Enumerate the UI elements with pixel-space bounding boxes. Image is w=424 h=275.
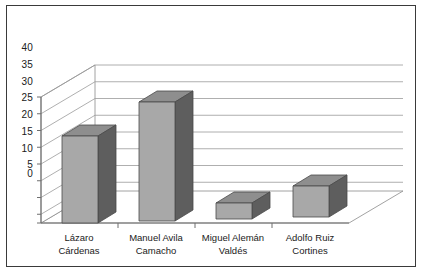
ytick-label-40: 40	[7, 42, 33, 53]
category-label-line-2: Camacho	[113, 244, 199, 257]
ytick-label-15: 15	[7, 126, 33, 137]
category-label-lazaro-cardenas: Lázaro Cárdenas	[36, 231, 122, 257]
value-axis	[37, 97, 41, 223]
bar-adolfo-ruiz-cortines[interactable]	[293, 175, 347, 217]
ytick-label-25: 25	[7, 92, 33, 103]
chart-frame: 40 35 30 25 20 15 10 5 0 Lázaro Cárdenas…	[6, 5, 416, 267]
category-label-manuel-avila-camacho: Manuel Avila Camacho	[113, 231, 199, 257]
category-label-line-1: Miguel Alemán	[202, 232, 264, 243]
ytick-label-35: 35	[7, 59, 33, 70]
ytick-label-0: 0	[7, 168, 33, 179]
ytick-label-20: 20	[7, 109, 33, 120]
category-label-adolfo-ruiz-cortines: Adolfo Ruiz Cortines	[267, 231, 353, 257]
bar-chart-plot	[7, 6, 415, 266]
ytick-label-10: 10	[7, 143, 33, 154]
category-label-line-1: Adolfo Ruiz	[286, 232, 335, 243]
ytick-label-30: 30	[7, 76, 33, 87]
category-label-line-1: Manuel Avila	[129, 232, 183, 243]
category-label-line-2: Cortines	[267, 244, 353, 257]
category-axis	[41, 223, 349, 228]
category-label-line-2: Valdés	[190, 244, 276, 257]
category-label-line-1: Lázaro	[64, 232, 93, 243]
bar-manuel-avila-camacho[interactable]	[139, 91, 193, 221]
category-label-miguel-aleman-valdes: Miguel Alemán Valdés	[190, 231, 276, 257]
category-label-line-2: Cárdenas	[36, 244, 122, 257]
bar-lazaro-cardenas[interactable]	[62, 125, 116, 223]
